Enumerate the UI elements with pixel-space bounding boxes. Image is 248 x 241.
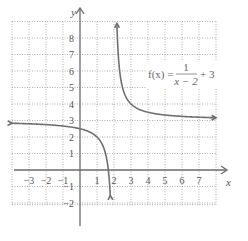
y-tick-label: 6 — [69, 66, 74, 77]
y-tick-label: −1 — [63, 181, 74, 192]
x-tick-label: −2 — [41, 175, 52, 186]
y-tick-label: 8 — [69, 33, 74, 44]
function-rhs: + 3 — [200, 68, 215, 80]
function-numerator: 1 — [183, 61, 189, 73]
chart: −3−2−1123456787654321−1−2 f(x) = 1 x − 2… — [0, 0, 248, 241]
x-tick-label: 6 — [180, 175, 185, 186]
curve-arrow-icon — [108, 196, 113, 200]
function-lhs: f(x) = — [148, 68, 173, 81]
y-tick-label: 3 — [69, 115, 74, 126]
curve-arrow-icon — [8, 121, 12, 126]
y-axis-label: y — [70, 6, 76, 18]
curve-layer — [8, 23, 216, 200]
x-tick-label: −3 — [24, 175, 35, 186]
x-tick-label: 4 — [146, 175, 151, 186]
x-tick-label: 5 — [163, 175, 168, 186]
y-tick-label: 7 — [69, 49, 74, 60]
function-denominator: x − 2 — [173, 75, 198, 87]
x-axis-label: x — [225, 176, 231, 188]
y-tick-label: 5 — [69, 82, 74, 93]
y-tick-label: 1 — [69, 148, 74, 159]
x-tick-label: 7 — [197, 175, 202, 186]
x-tick-label: 3 — [129, 175, 134, 186]
x-tick-label: 1 — [95, 175, 100, 186]
function-label: f(x) = 1 x − 2 + 3 — [146, 60, 218, 88]
y-tick-label: 2 — [69, 132, 74, 143]
y-tick-label: 4 — [69, 99, 74, 110]
y-tick-label: −2 — [63, 198, 74, 209]
x-tick-label: 2 — [112, 175, 117, 186]
